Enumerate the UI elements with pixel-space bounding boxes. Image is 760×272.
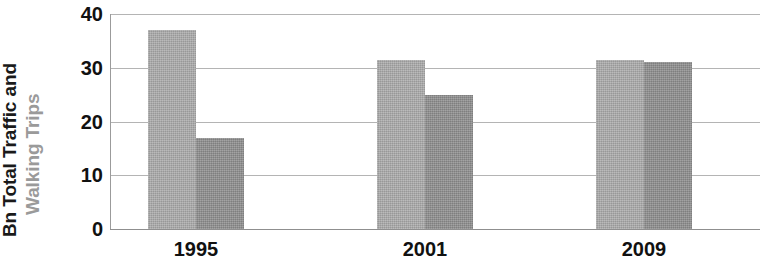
- bar-1995-series-a: [148, 30, 196, 229]
- y-tick-label-30: 30: [57, 58, 103, 78]
- y-axis-tick-labels: 010203040: [57, 0, 103, 245]
- y-axis-title: Bn Total Traffic and Walking Trips: [0, 0, 56, 245]
- bar-2009-series-b: [644, 62, 692, 229]
- bar-2009-series-a: [596, 60, 644, 229]
- bar-2001-series-b: [425, 95, 473, 229]
- gridline-40: [110, 14, 760, 15]
- bar-2001-series-a: [377, 60, 425, 229]
- x-tick-label-2001: 2001: [385, 238, 465, 260]
- bar-chart: Bn Total Traffic and Walking Trips 01020…: [0, 0, 760, 272]
- x-axis-line: [110, 229, 760, 230]
- bar-1995-series-b: [196, 138, 244, 229]
- x-axis-tick-labels: 199520012009: [110, 238, 760, 270]
- y-axis-line: [110, 14, 111, 230]
- x-tick-label-1995: 1995: [156, 238, 236, 260]
- y-tick-label-0: 0: [57, 219, 103, 239]
- y-axis-title-line-2: Walking Trips: [22, 93, 44, 215]
- y-tick-label-10: 10: [57, 165, 103, 185]
- y-tick-label-40: 40: [57, 4, 103, 24]
- plot-area: [110, 14, 760, 229]
- x-tick-label-2009: 2009: [604, 238, 684, 260]
- y-axis-title-line-1: Bn Total Traffic and: [0, 63, 21, 237]
- y-tick-label-20: 20: [57, 112, 103, 132]
